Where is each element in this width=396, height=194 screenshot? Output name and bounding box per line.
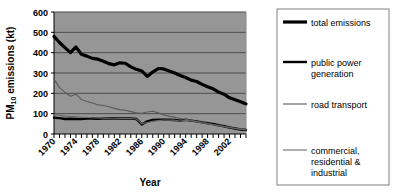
y-tick-label: 100 <box>33 109 48 119</box>
x-axis-tick-labels: 197019741978198219861990199419982002 <box>36 136 233 157</box>
y-tick-label: 600 <box>33 8 48 18</box>
x-tick-label-group: 1970 <box>36 136 57 157</box>
x-tick-label: 1978 <box>80 136 101 157</box>
x-tick-label: 1970 <box>36 136 57 157</box>
x-tick-label: 1982 <box>102 136 123 157</box>
x-tick-label-group: 1982 <box>102 136 123 157</box>
x-tick-label: 1990 <box>146 136 167 157</box>
x-tick-label-group: 1998 <box>190 136 211 157</box>
y-axis-title: PM10 emissions (kt) <box>5 27 17 120</box>
y-tick-label: 500 <box>33 28 48 38</box>
y-axis-title-sub: 10 <box>10 97 17 105</box>
x-tick-label-group: 1986 <box>124 136 145 157</box>
x-tick-label: 1998 <box>190 136 211 157</box>
svg-text:PM10 emissions (kt): PM10 emissions (kt) <box>5 27 17 120</box>
chart-figure: 0100200300400500600 19701974197819821986… <box>0 0 396 194</box>
y-tick-label: 300 <box>33 69 48 79</box>
x-tick-label: 1974 <box>58 136 79 157</box>
legend-label-2: road transport <box>311 100 368 110</box>
y-tick-label: 0 <box>43 130 48 140</box>
x-tick-label: 1994 <box>168 136 189 157</box>
y-tick-label: 400 <box>33 48 48 58</box>
y-tick-label: 200 <box>33 89 48 99</box>
x-tick-label: 1986 <box>124 136 145 157</box>
x-axis-ticks <box>54 134 246 138</box>
pm10-emissions-line-chart: 0100200300400500600 19701974197819821986… <box>0 0 396 194</box>
legend-label-0: total emissions <box>311 18 371 28</box>
x-tick-label-group: 1978 <box>80 136 101 157</box>
x-axis-title: Year <box>139 177 160 188</box>
x-tick-label: 2002 <box>212 136 233 157</box>
x-tick-label-group: 1974 <box>58 136 79 157</box>
x-tick-label-group: 1994 <box>168 136 189 157</box>
x-tick-label-group: 1990 <box>146 136 167 157</box>
y-axis-title-tail: emissions (kt) <box>5 27 16 97</box>
y-axis-title-main: PM <box>5 104 16 119</box>
y-axis-ticks: 0100200300400500600 <box>33 8 54 140</box>
x-tick-label-group: 2002 <box>212 136 233 157</box>
